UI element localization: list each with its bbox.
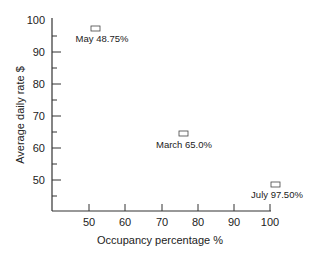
y-tick-label: 80 bbox=[33, 78, 45, 90]
y-axis-label: Average daily rate $ bbox=[14, 66, 26, 164]
x-tick-label: 50 bbox=[83, 216, 95, 228]
y-tick-label: 70 bbox=[33, 110, 45, 122]
x-tick-label: 70 bbox=[156, 216, 168, 228]
scatter-chart: 100 90 80 70 60 50 50 60 70 80 90 100 Oc… bbox=[0, 0, 317, 253]
x-ticks bbox=[89, 204, 270, 211]
data-point-marker bbox=[179, 131, 188, 136]
y-tick-label: 60 bbox=[33, 142, 45, 154]
data-point-label: July 97.50% bbox=[251, 189, 303, 200]
data-point-label: May 48.75% bbox=[76, 33, 129, 44]
y-tick-label: 100 bbox=[27, 14, 45, 26]
data-point-label: March 65.0% bbox=[156, 139, 213, 150]
x-tick-label: 60 bbox=[119, 216, 131, 228]
x-tick-label: 80 bbox=[192, 216, 204, 228]
data-point-marker bbox=[91, 26, 100, 31]
x-axis-label: Occupancy percentage % bbox=[97, 234, 223, 246]
x-tick-label: 90 bbox=[228, 216, 240, 228]
x-tick-label: 100 bbox=[261, 216, 279, 228]
y-tick-label: 50 bbox=[33, 174, 45, 186]
y-ticks bbox=[52, 36, 61, 196]
data-point-marker bbox=[271, 182, 280, 187]
y-tick-label: 90 bbox=[33, 46, 45, 58]
